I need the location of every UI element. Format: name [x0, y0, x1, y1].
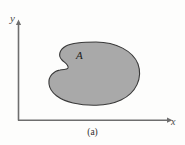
y-axis-label: y: [10, 13, 15, 24]
x-axis-label: x: [171, 117, 175, 127]
arrow-up-icon: [16, 20, 21, 26]
figure-container: y x A (a): [0, 0, 185, 145]
figure-drawing-canvas: [0, 0, 185, 145]
figure-caption: (a): [0, 128, 185, 138]
shaded-planar-region: [49, 42, 140, 105]
region-label-a: A: [76, 50, 83, 61]
